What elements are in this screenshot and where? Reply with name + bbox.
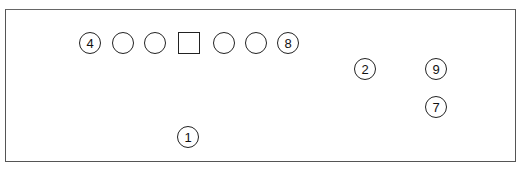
- empty-circle: [245, 32, 267, 54]
- callout-label: 8: [284, 37, 291, 50]
- empty-circle: [112, 32, 134, 54]
- callout-7-circle: 7: [425, 96, 447, 118]
- callout-4-circle: 4: [79, 32, 101, 54]
- diagram-frame: [5, 9, 516, 162]
- callout-label: 2: [361, 63, 368, 76]
- callout-1-circle: 1: [177, 126, 199, 148]
- callout-label: 9: [432, 63, 439, 76]
- empty-square: [178, 32, 200, 54]
- callout-8-circle: 8: [277, 32, 299, 54]
- callout-2-circle: 2: [354, 58, 376, 80]
- empty-circle: [213, 32, 235, 54]
- empty-circle: [144, 32, 166, 54]
- callout-9-circle: 9: [425, 58, 447, 80]
- callout-label: 4: [86, 37, 93, 50]
- callout-label: 1: [184, 131, 191, 144]
- callout-label: 7: [432, 101, 439, 114]
